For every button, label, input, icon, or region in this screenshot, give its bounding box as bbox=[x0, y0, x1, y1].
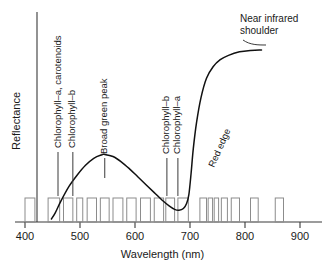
annotation-label-near-infrared-shoulder-line1: Near infrared bbox=[240, 13, 298, 24]
x-axis-tick-label: 500 bbox=[71, 230, 89, 242]
spectral-band-blocks bbox=[25, 198, 284, 222]
x-axis-tick-label: 700 bbox=[181, 230, 199, 242]
spectral-band-block bbox=[251, 198, 259, 222]
annotation-label-near-infrared-shoulder-line2: shoulder bbox=[240, 25, 279, 36]
spectral-band-block bbox=[77, 198, 83, 222]
spectral-band-block bbox=[141, 198, 151, 222]
x-axis-tick-label: 800 bbox=[236, 230, 254, 242]
spectral-band-block bbox=[208, 198, 212, 222]
spectral-band-block bbox=[48, 198, 60, 222]
y-axis-title: Reflectance bbox=[10, 92, 22, 150]
x-axis-tick-label: 400 bbox=[16, 230, 34, 242]
spectral-band-block bbox=[154, 198, 163, 222]
annotation-labels: Chlorophyll–a, carotenoidsChlorophyll–bB… bbox=[52, 13, 299, 169]
spectral-band-block bbox=[275, 198, 283, 222]
annotation-label-broad-green-peak: Broad green peak bbox=[98, 78, 109, 154]
spectral-band-block bbox=[100, 198, 109, 222]
spectral-band-block bbox=[87, 198, 96, 222]
spectral-band-block bbox=[200, 198, 207, 222]
spectral-band-block bbox=[64, 198, 73, 222]
spectral-reflectance-figure: 400500600700800900 Chlorophyll–a, carote… bbox=[0, 0, 334, 267]
spectral-band-block bbox=[214, 198, 218, 222]
x-axis-tick-label: 600 bbox=[126, 230, 144, 242]
annotation-label-chl-a-red: Chlorophyll–a bbox=[171, 95, 182, 154]
annotation-label-chl-b-red: Chlorophyll–b bbox=[160, 96, 171, 154]
spectral-band-block bbox=[127, 198, 136, 222]
annotation-label-red-edge: Red edge bbox=[206, 127, 233, 169]
spectral-band-block bbox=[231, 198, 239, 222]
x-axis-tick-label: 900 bbox=[291, 230, 309, 242]
spectral-band-block bbox=[166, 198, 175, 222]
annotation-label-chl-b-blue: Chlorophyll–b bbox=[66, 90, 77, 148]
annotation-label-chl-a-carotenoids: Chlorophyll–a, carotenoids bbox=[52, 35, 63, 148]
spectral-band-block bbox=[25, 198, 35, 222]
x-axis-title: Wavelength (nm) bbox=[121, 248, 204, 260]
chart-canvas: 400500600700800900 Chlorophyll–a, carote… bbox=[0, 0, 334, 267]
spectral-band-block bbox=[221, 198, 227, 222]
annotation-leader-line bbox=[243, 40, 266, 45]
spectral-band-block bbox=[113, 198, 123, 222]
